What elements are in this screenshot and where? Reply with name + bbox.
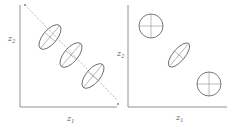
ellipse-middle: [165, 40, 193, 71]
diagonal-endpoint-dot: [24, 4, 26, 6]
right-panel: z2 z1: [116, 5, 227, 123]
ellipse-3: [78, 60, 108, 92]
left-y-label: z2: [7, 34, 15, 44]
left-x-label: z1: [66, 114, 74, 124]
diagonal-endpoint-dot: [117, 103, 119, 105]
ellipse-2: [56, 39, 86, 71]
right-y-label: z2: [116, 49, 124, 59]
circle-bottom-right: [197, 72, 221, 96]
dashed-diagonal: [25, 5, 117, 100]
circle-top-left: [139, 14, 163, 38]
left-panel: z2 z1: [7, 4, 119, 124]
ellipse-1: [35, 21, 65, 53]
right-x-label: z1: [175, 113, 183, 123]
diagram-canvas: z2 z1 z2 z1: [0, 0, 233, 131]
